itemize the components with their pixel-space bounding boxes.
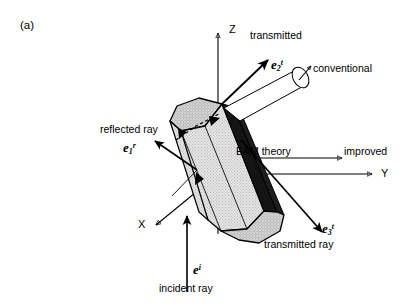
transmitted-label: transmitted [250, 30, 302, 41]
vector-sup-e2t: t [281, 58, 283, 67]
conventional-cone [224, 64, 312, 121]
vector-symbol-ei: ei [193, 263, 201, 278]
transmitted-ray-label: transmitted ray [264, 239, 333, 250]
vector-sup-e1r: r [133, 141, 136, 150]
improved-label: improved [344, 146, 387, 157]
panel-label: (a) [20, 20, 34, 32]
incident-ray-label: incident ray [159, 283, 213, 294]
vector-sup-e3t: t [332, 222, 334, 231]
reflected-ray-label: reflected ray [100, 124, 158, 135]
x-axis-label: X [138, 219, 145, 230]
em-theory-label: E&M theory [236, 146, 291, 157]
z-axis-label: Z [229, 24, 236, 35]
vector-sup-ei: i [199, 263, 201, 272]
vector-symbol-e3t: e3t [322, 222, 334, 237]
y-axis-label: Y [381, 168, 388, 179]
figure-panel-a: (a) Z Y X transmitted reflected ray tran… [0, 0, 407, 305]
vector-symbol-e1r: e1r [123, 141, 136, 156]
vector-symbol-e2t: e2t [271, 58, 283, 73]
conventional-label: conventional [313, 63, 372, 74]
